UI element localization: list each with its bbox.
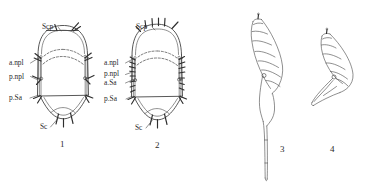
figure-1-drawing — [33, 23, 95, 127]
figure-3-number: 3 — [280, 145, 285, 154]
figure-2-drawing — [128, 18, 187, 128]
figure-1-label-a-npl: a.npl — [9, 59, 24, 66]
figure-1-number: 1 — [60, 140, 65, 149]
figure-2-leader-lines — [126, 27, 156, 128]
figure-2-label-p-sa: p.Sa — [104, 95, 117, 102]
figure-2-label-sc: Sc — [135, 124, 142, 131]
figure-1-label-p-sa: p.Sa — [9, 94, 22, 101]
figure-1-label-sc: Sc — [40, 123, 47, 130]
figure-2-number: 2 — [155, 141, 160, 150]
illustration-plate: Scp a.npl p.npl p.Sa Sc 1 Scp a.npl p.np… — [0, 0, 378, 194]
figure-2-label-p-npl: p.npl — [104, 70, 119, 77]
figure-2-label-a-sa: a.Sa — [104, 79, 117, 86]
figure-4-number: 4 — [330, 145, 335, 154]
figure-2-label-a-npl: a.npl — [104, 59, 119, 66]
figure-1-label-p-npl: p.npl — [9, 73, 24, 80]
figure-3-drawing — [251, 13, 282, 181]
figure-4-drawing — [312, 28, 354, 105]
plate-linework — [0, 0, 378, 194]
figure-2-label-scp: Scp — [136, 23, 147, 30]
figure-1-label-scp: Scp — [42, 23, 53, 30]
